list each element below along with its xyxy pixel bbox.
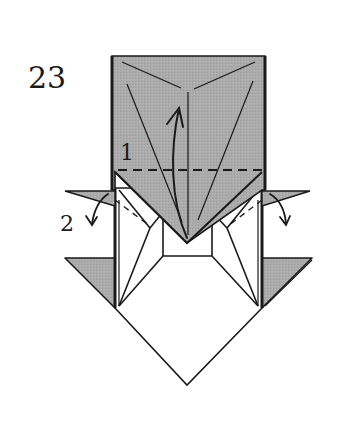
origami-step-diagram: 23 [0, 0, 344, 426]
step-label-1: 1 [120, 140, 134, 165]
left-side-flap [65, 191, 115, 206]
step-label-2: 2 [60, 211, 74, 236]
lower-right-point [262, 258, 312, 308]
lower-left-point [65, 258, 115, 308]
diagram-canvas: 23 [0, 0, 344, 426]
right-side-flap [262, 191, 310, 206]
step-number: 23 [28, 60, 66, 95]
